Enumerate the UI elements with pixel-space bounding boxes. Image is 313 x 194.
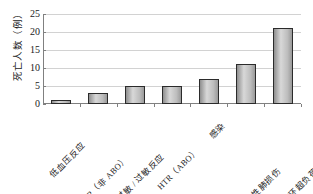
y-axis-tick-label: 15 <box>14 45 40 55</box>
y-axis-tick-label: 5 <box>14 81 40 91</box>
x-axis-tick-label: 感染 <box>221 106 242 127</box>
bar[interactable] <box>125 86 145 104</box>
bar[interactable] <box>162 86 182 104</box>
bar[interactable] <box>199 79 219 104</box>
bar-chart: 死亡人数（例） 0510152025 低血压反应HTR（非 ABO）过敏 / 过… <box>0 0 313 194</box>
y-axis-tick-mark <box>43 14 46 15</box>
y-axis-tick-label: 25 <box>14 9 40 19</box>
x-axis-tick-label-text: 低血压反应 <box>48 139 88 179</box>
y-axis-tick-label: 0 <box>14 99 40 109</box>
y-axis-tick-mark <box>43 68 46 69</box>
bar[interactable] <box>51 100 71 104</box>
bar-slot <box>80 14 117 104</box>
y-axis-tick-label: 20 <box>14 27 40 37</box>
y-axis-tick-mark <box>43 50 46 51</box>
bar-slot <box>154 14 191 104</box>
x-axis-tick-label: 输血相关急性肺损伤 <box>276 106 313 172</box>
bar-slot <box>117 14 154 104</box>
x-axis-tick-label-text: 感染 <box>207 120 228 141</box>
x-axis-tick-labels: 低血压反应HTR（非 ABO）过敏 / 过敏反应HTR（ABO）感染输血相关急性… <box>43 106 301 194</box>
bar[interactable] <box>236 64 256 104</box>
x-axis-tick-mark <box>301 104 302 107</box>
bar-slot <box>190 14 227 104</box>
y-axis-tick-labels: 0510152025 <box>12 14 40 104</box>
bars-layer <box>43 14 301 104</box>
x-axis-tick-label: 低血压反应 <box>81 106 121 146</box>
bar[interactable] <box>88 93 108 104</box>
bar-slot <box>43 14 80 104</box>
bar-slot <box>227 14 264 104</box>
y-axis-tick-mark <box>43 86 46 87</box>
y-axis-tick-label: 10 <box>14 63 40 73</box>
y-axis-tick-mark <box>43 104 46 105</box>
bar[interactable] <box>273 28 293 104</box>
bar-slot <box>264 14 301 104</box>
x-axis-tick-label-text: 输血相关急性肺损伤 <box>217 165 283 194</box>
y-axis-tick-mark <box>43 32 46 33</box>
